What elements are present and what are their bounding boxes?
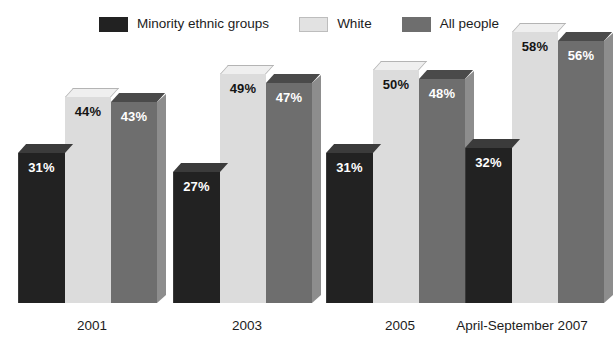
category-label-2001: 2001: [18, 318, 166, 333]
bar-front-face: [419, 79, 465, 303]
bar-2005-white[interactable]: 50%: [373, 70, 419, 303]
bar-front-face: [373, 70, 419, 303]
bar-top-face: [65, 88, 119, 97]
bar-front-face: [220, 74, 266, 303]
bar-front-face: [173, 172, 220, 303]
bar-front-face: [465, 148, 512, 303]
bar-top-face: [465, 139, 520, 148]
bar-april-september-2007-all-people[interactable]: 56%: [558, 41, 604, 303]
bar-front-face: [266, 83, 312, 303]
bar-april-september-2007-minority[interactable]: 32%: [465, 148, 512, 303]
bar-front-face: [326, 153, 373, 303]
bar-front-face: [111, 102, 157, 303]
bar-2001-minority[interactable]: 31%: [18, 153, 65, 303]
bar-top-face: [173, 163, 228, 172]
bar-group-2001: 31% 44% 43%: [18, 44, 158, 303]
bar-2003-white[interactable]: 49%: [220, 74, 266, 303]
bar-group-april-september-2007: 32% 58% 56%: [465, 44, 605, 303]
bar-2001-all-people[interactable]: 43%: [111, 102, 157, 303]
bar-side-face: [157, 94, 166, 303]
bar-april-september-2007-white[interactable]: 58%: [512, 32, 558, 303]
bar-2003-all-people[interactable]: 47%: [266, 83, 312, 303]
bar-group-2003: 27% 49% 47%: [173, 44, 313, 303]
bar-front-face: [558, 41, 604, 303]
bar-2005-minority[interactable]: 31%: [326, 153, 373, 303]
category-label-april-september-2007: April-September 2007: [448, 318, 596, 333]
bar-top-face: [220, 65, 274, 74]
bar-front-face: [65, 97, 111, 303]
bar-top-face: [373, 61, 427, 70]
bar-group-2005: 31% 50% 48%: [326, 44, 466, 303]
bar-front-face: [18, 153, 65, 303]
bar-side-face: [312, 75, 321, 303]
bar-top-face: [18, 144, 73, 153]
bar-2001-white[interactable]: 44%: [65, 97, 111, 303]
bar-top-face: [326, 144, 381, 153]
bar-2003-minority[interactable]: 27%: [173, 172, 220, 303]
category-label-2003: 2003: [173, 318, 321, 333]
bar-2005-all-people[interactable]: 48%: [419, 79, 465, 303]
bar-side-face: [604, 33, 613, 303]
bar-front-face: [512, 32, 558, 303]
bar-top-face: [512, 23, 566, 32]
